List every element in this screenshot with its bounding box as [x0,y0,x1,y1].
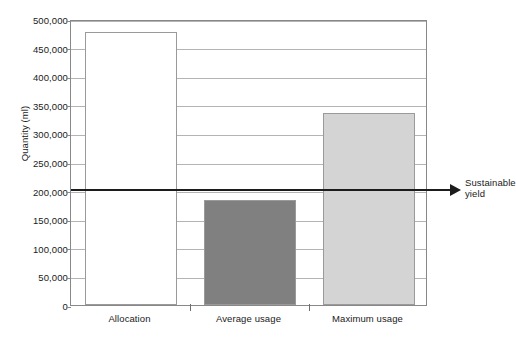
y-axis-tickmark [66,164,71,165]
y-axis-tick-label: 250,000 [6,158,68,169]
bar-maximum-usage [323,113,415,305]
y-axis-tick-label: 400,000 [6,72,68,83]
bar-average-usage [204,200,296,305]
y-axis-tickmark [66,21,71,22]
y-axis-tick-label: 100,000 [6,243,68,254]
sustainable-yield-label-line-1: Sustainable [465,177,516,189]
sustainable-yield-label-line-2: yield [465,188,516,200]
bar-allocation [85,32,177,305]
y-axis-tick-label: 450,000 [6,43,68,54]
y-axis-tickmark [66,278,71,279]
y-axis-tick-label: 300,000 [6,129,68,140]
y-axis-tickmark [66,49,71,50]
y-axis-tick-label: 350,000 [6,100,68,111]
gridline [71,21,426,22]
x-axis-tickmark [190,304,191,311]
x-axis-label-maximum-usage: Maximum usage [332,313,403,324]
x-axis-label-allocation: Allocation [108,313,150,324]
y-axis-tick-label: 200,000 [6,186,68,197]
y-axis-tickmark [66,307,71,308]
y-axis-tickmark [66,192,71,193]
y-axis-tick-label: 0 [6,301,68,312]
sustainable-yield-label: Sustainable yield [465,177,516,200]
y-axis-tick-label: 500,000 [6,15,68,26]
y-axis-tickmark [66,135,71,136]
y-axis-tickmark [66,249,71,250]
y-axis-tick-labels: 050,000100,000150,000200,000250,000300,0… [0,0,68,342]
y-axis-tick-label: 150,000 [6,215,68,226]
y-axis-tickmark [66,78,71,79]
y-axis-tick-label: 50,000 [6,272,68,283]
sustainable-yield-arrowhead [450,184,461,196]
x-axis-tickmark [309,304,310,311]
plot-area [70,20,427,306]
y-axis-tickmark [66,106,71,107]
y-axis-tickmark [66,221,71,222]
x-axis-label-average-usage: Average usage [216,313,281,324]
sustainable-yield-line [71,189,452,191]
